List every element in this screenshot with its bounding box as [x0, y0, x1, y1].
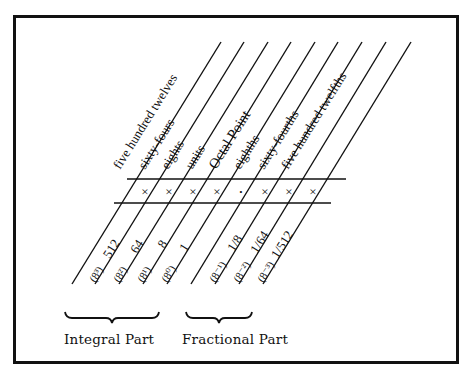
power-1: (8⁰): [159, 263, 179, 285]
power-512: (8³): [87, 264, 107, 285]
power-8: (8¹): [135, 264, 155, 285]
fractional-part-label: Fractional Part: [182, 331, 288, 347]
cell-5: ×: [261, 184, 268, 199]
cell-2: ×: [189, 184, 196, 199]
integral-part-label: Integral Part: [64, 331, 154, 347]
digit-cells: × × × × · × × ×: [141, 184, 316, 199]
power-1-64: (8⁻²): [231, 259, 254, 285]
cell-1: ×: [165, 184, 172, 199]
cell-7: ×: [309, 184, 316, 199]
octal-point-dot: ·: [239, 184, 243, 199]
cell-0: ×: [141, 184, 148, 199]
value-512: 512: [100, 236, 123, 260]
value-1-512: 1/512: [268, 228, 296, 261]
integral-brace: [65, 312, 159, 323]
place-value-diagram: × × × × · × × × five hundred twelves six…: [0, 0, 475, 377]
power-1-512: (8⁻³): [255, 259, 278, 285]
place-values: (8³) 512 (8²) 64 (8¹) 8 (8⁰) 1 (8⁻¹) 1/8…: [85, 228, 296, 285]
place-names: five hundred twelves sixty-fours eights …: [110, 69, 350, 171]
power-64: (8²): [111, 264, 131, 285]
value-64: 64: [127, 236, 147, 255]
fractional-brace: [186, 312, 252, 323]
value-1: 1: [176, 241, 192, 254]
cell-6: ×: [285, 184, 292, 199]
value-1-8: 1/8: [224, 232, 246, 254]
cell-3: ×: [213, 184, 220, 199]
value-8: 8: [154, 237, 170, 250]
power-1-8: (8⁻¹): [207, 259, 230, 285]
